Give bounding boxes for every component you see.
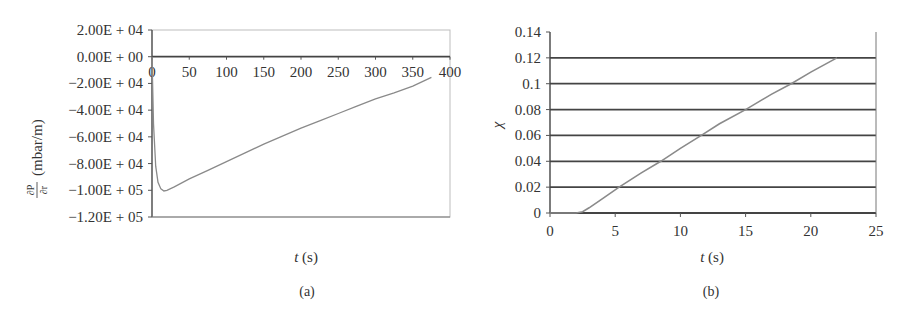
chart-b-y-axis-label: χ <box>489 121 505 130</box>
y-tick-label: −6.00E + 04 <box>68 129 143 145</box>
y-tick-label: 0.12 <box>515 50 541 66</box>
y-tick-label: −4.00E + 04 <box>68 102 143 118</box>
chart-b-gridlines <box>550 32 876 213</box>
x-tick-label: 20 <box>803 223 818 239</box>
y-tick-label: 0 <box>534 205 542 221</box>
chart-b-x-tick-labels: 0510152025 <box>546 213 883 239</box>
y-tick-label: −2.00E + 04 <box>68 75 143 91</box>
chart-a: 2.00E + 040.00E + 00−2.00E + 04−4.00E + … <box>25 22 461 300</box>
y-tick-label: −1.00E + 05 <box>68 182 143 198</box>
x-tick-label: 200 <box>290 64 313 80</box>
chart-b-caption: (b) <box>703 284 720 300</box>
x-tick-label: 50 <box>182 64 197 80</box>
chart-b: 0.140.120.10.080.060.040.020 0510152025 … <box>489 24 884 300</box>
y-tick-label: 0.02 <box>515 179 541 195</box>
chart-b-y-tick-labels: 0.140.120.10.080.060.040.020 <box>515 24 550 221</box>
ylabel-unit: (mbar/m) <box>29 119 46 176</box>
x-tick-label: 250 <box>327 64 350 80</box>
y-tick-label: 0.14 <box>515 24 542 40</box>
chart-b-x-axis-label: t (s) <box>700 249 724 266</box>
chart-a-y-axis-label: ∂P ∂r (mbar/m) <box>25 119 49 198</box>
y-tick-label: 0.00E + 00 <box>77 49 143 65</box>
y-tick-label: 0.08 <box>515 102 541 118</box>
xlabel-unit: (s) <box>298 249 318 266</box>
y-tick-label: 2.00E + 04 <box>77 22 144 38</box>
x-tick-label: 100 <box>215 64 238 80</box>
y-tick-label: 0.1 <box>522 76 541 92</box>
figure: 2.00E + 040.00E + 00−2.00E + 04−4.00E + … <box>0 0 905 321</box>
ylabel-frac-denominator: ∂r <box>38 185 49 194</box>
xlabel-unit: (s) <box>704 249 724 266</box>
x-tick-label: 300 <box>364 64 387 80</box>
x-tick-label: 350 <box>402 64 425 80</box>
y-tick-label: −1.20E + 05 <box>68 209 143 225</box>
chart-a-x-tick-labels: 050100150200250300350400 <box>148 57 461 80</box>
chart-a-x-axis-label: t (s) <box>294 249 318 266</box>
x-tick-label: 150 <box>253 64 276 80</box>
y-tick-label: 0.04 <box>515 153 542 169</box>
y-tick-label: −8.00E + 04 <box>68 156 143 172</box>
x-tick-label: 0 <box>546 223 554 239</box>
chart-a-caption: (a) <box>299 284 315 300</box>
chart-a-y-tick-labels: 2.00E + 040.00E + 00−2.00E + 04−4.00E + … <box>68 22 152 225</box>
x-tick-label: 10 <box>673 223 688 239</box>
x-tick-label: 15 <box>738 223 753 239</box>
x-tick-label: 25 <box>869 223 884 239</box>
x-tick-label: 5 <box>611 223 619 239</box>
ylabel-frac-numerator: ∂P <box>25 184 36 195</box>
y-tick-label: 0.06 <box>515 127 542 143</box>
x-tick-label: 400 <box>439 64 462 80</box>
